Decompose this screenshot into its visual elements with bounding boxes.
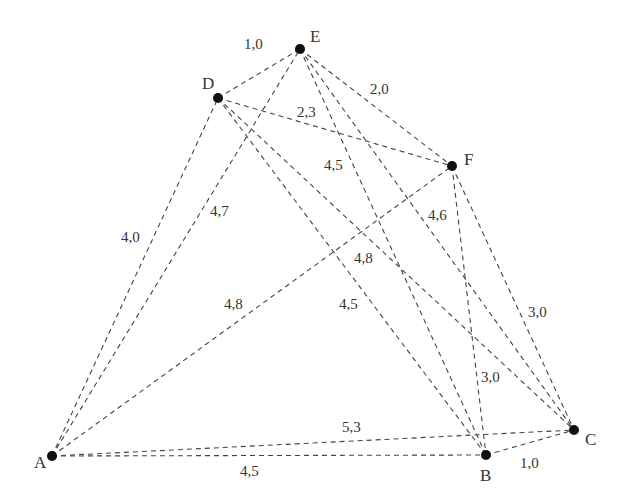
node-b <box>481 450 491 460</box>
edge-weight-label: 4,6 <box>428 207 447 223</box>
nodes-layer: ABCDEF <box>34 27 596 485</box>
edge-weight-label: 2,3 <box>297 104 316 120</box>
edge-d-f <box>218 98 452 166</box>
node-f <box>447 161 457 171</box>
edge-d-b <box>218 98 486 455</box>
edge-weight-label: 4,7 <box>210 203 229 219</box>
node-label-e: E <box>310 27 320 46</box>
edge-f-c <box>452 166 574 430</box>
node-e <box>295 44 305 54</box>
edge-e-f <box>300 49 452 166</box>
edge-weight-label: 4,5 <box>339 296 358 312</box>
edge-weight-label: 4,8 <box>224 296 243 312</box>
graph-diagram: 1,02,02,34,04,74,84,54,54,64,83,03,05,34… <box>0 0 622 500</box>
edge-a-e <box>52 49 300 456</box>
edge-weight-label: 4,5 <box>324 157 343 173</box>
edge-labels-layer: 1,02,02,34,04,74,84,54,54,64,83,03,05,34… <box>121 36 547 479</box>
edge-a-d <box>52 98 218 456</box>
edge-a-b <box>52 455 486 456</box>
edge-weight-label: 1,0 <box>520 455 539 471</box>
node-label-d: D <box>202 74 214 93</box>
node-label-c: C <box>585 430 596 449</box>
edge-a-f <box>52 166 452 456</box>
graph-svg: 1,02,02,34,04,74,84,54,54,64,83,03,05,34… <box>0 0 622 500</box>
edge-weight-label: 2,0 <box>370 81 389 97</box>
edge-weight-label: 4,8 <box>354 250 373 266</box>
edge-d-e <box>218 49 300 98</box>
node-label-f: F <box>464 150 473 169</box>
edge-weight-label: 3,0 <box>528 304 547 320</box>
edge-weight-label: 4,5 <box>240 463 259 479</box>
node-label-b: B <box>480 466 491 485</box>
edge-f-b <box>452 166 486 455</box>
edge-d-c <box>218 98 574 430</box>
node-d <box>213 93 223 103</box>
node-label-a: A <box>34 453 47 472</box>
edge-weight-label: 1,0 <box>244 36 263 52</box>
edge-b-c <box>486 430 574 455</box>
edge-e-c <box>300 49 574 430</box>
edge-weight-label: 4,0 <box>121 229 140 245</box>
edge-e-b <box>300 49 486 455</box>
edge-weight-label: 3,0 <box>481 369 500 385</box>
node-a <box>47 451 57 461</box>
edge-weight-label: 5,3 <box>342 419 361 435</box>
node-c <box>569 425 579 435</box>
